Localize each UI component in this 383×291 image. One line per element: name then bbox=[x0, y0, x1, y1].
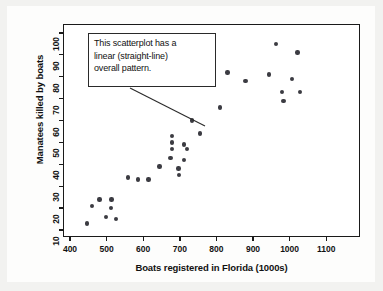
x-tick-label: 900 bbox=[236, 244, 270, 254]
x-tick-label: 700 bbox=[163, 244, 197, 254]
x-tick-label: 800 bbox=[199, 244, 233, 254]
y-tick-label: 40 bbox=[51, 164, 61, 186]
y-tick-label: 70 bbox=[51, 99, 61, 121]
x-tick-label: 1000 bbox=[273, 244, 307, 254]
annotation-line-2: linear (straight-line) bbox=[94, 50, 210, 63]
x-tick-mark bbox=[252, 237, 253, 241]
x-tick-mark bbox=[289, 237, 290, 241]
x-tick-mark bbox=[106, 237, 107, 241]
y-tick-label: 80 bbox=[51, 77, 61, 99]
annotation-line-3: overall pattern. bbox=[94, 62, 210, 75]
y-tick-label: 90 bbox=[51, 55, 61, 77]
annotation-textbox: This scatterplot has a linear (straight-… bbox=[88, 33, 216, 87]
x-tick-mark bbox=[143, 237, 144, 241]
figure-container: Manatees killed by boats Boats registere… bbox=[0, 0, 383, 291]
x-tick-label: 500 bbox=[90, 244, 124, 254]
x-axis-title: Boats registered in Florida (1000s) bbox=[63, 262, 360, 273]
y-tick-label: 60 bbox=[51, 121, 61, 143]
y-tick-label: 20 bbox=[51, 208, 61, 230]
y-tick-label: 10 bbox=[51, 230, 61, 252]
y-tick-label: 100 bbox=[51, 33, 61, 55]
annotation-line-1: This scatterplot has a bbox=[94, 37, 210, 50]
y-tick-label: 50 bbox=[51, 142, 61, 164]
x-tick-label: 600 bbox=[126, 244, 160, 254]
x-tick-mark bbox=[179, 237, 180, 241]
y-axis-title: Manatees killed by boats bbox=[34, 15, 45, 205]
x-tick-mark bbox=[326, 237, 327, 241]
y-tick-label: 30 bbox=[51, 186, 61, 208]
x-tick-label: 1100 bbox=[309, 244, 343, 254]
x-tick-mark bbox=[216, 237, 217, 241]
x-tick-mark bbox=[69, 237, 70, 241]
